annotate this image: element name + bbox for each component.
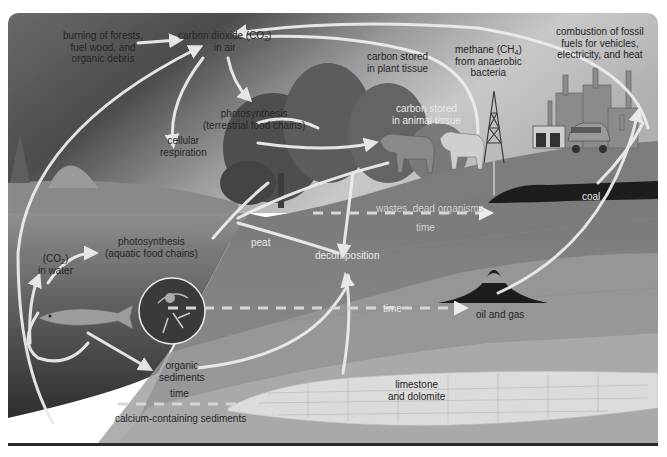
label-time-lower: time: [170, 388, 189, 400]
plankton-inset: [139, 278, 205, 344]
label-animal-tissue: carbon stored in animal tissue: [392, 103, 461, 126]
label-combustion: combustion of fossil fuels for vehicles,…: [556, 26, 644, 61]
label-limestone: limestone and dolomite: [388, 379, 445, 402]
label-time-upper: time: [416, 222, 435, 234]
gas-station: [533, 126, 565, 148]
label-cellular-respiration: cellular respiration: [160, 135, 207, 158]
label-photosynthesis-terrestrial: photosynthesis (terrestrial food chains): [203, 108, 305, 131]
label-calcium-sediments: calcium-containing sediments: [115, 413, 246, 425]
label-burning: burning of forests, fuel wood, and organ…: [63, 30, 143, 65]
label-methane: methane (CH4) from anaerobic bacteria: [455, 44, 522, 79]
label-wastes: wastes, dead organisms: [376, 203, 484, 215]
diagram-illustration: [8, 13, 658, 443]
label-coal: coal: [582, 191, 600, 203]
label-plant-tissue: carbon stored in plant tissue: [367, 51, 428, 74]
label-photosynthesis-aquatic: photosynthesis (aquatic food chains): [105, 236, 198, 259]
label-peat: peat: [251, 237, 270, 249]
label-organic-sediments: organic sediments: [159, 360, 205, 383]
label-co2-air: carbon dioxide (CO2) in air: [178, 30, 271, 53]
carbon-cycle-diagram: burning of forests, fuel wood, and organ…: [8, 13, 658, 443]
label-oil-gas: oil and gas: [476, 309, 524, 321]
label-decomposition: decomposition: [315, 250, 379, 262]
label-time-middle: time: [383, 303, 402, 315]
bottom-border: [8, 443, 658, 446]
label-co2-water: (CO2) in water: [38, 253, 73, 276]
